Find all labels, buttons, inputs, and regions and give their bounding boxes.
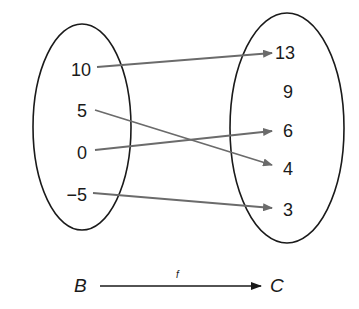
codomain-element: 4 <box>283 159 293 179</box>
domain-element: 5 <box>77 101 87 121</box>
domain-element: 0 <box>77 143 87 163</box>
domain-element: −5 <box>66 185 87 205</box>
codomain-element: 3 <box>283 200 293 220</box>
function-label: f <box>176 269 180 280</box>
codomain-element: 13 <box>275 43 295 63</box>
codomain-element: 6 <box>283 121 293 141</box>
mapping-arrow-5-to-4 <box>95 110 272 165</box>
domain-set-label: B <box>74 275 87 296</box>
domain-element: 10 <box>71 60 91 80</box>
mapping-arrow-10-to-13 <box>97 53 272 67</box>
codomain-set-label: C <box>270 275 284 296</box>
codomain-element: 9 <box>283 82 293 102</box>
function-mapping-diagram: 10 5 0 −5 13 9 6 4 3 C --> B f C <box>0 0 359 309</box>
mapping-arrow-0-to-6 <box>95 131 272 150</box>
mapping-arrow-neg5-to-3 <box>93 193 272 208</box>
